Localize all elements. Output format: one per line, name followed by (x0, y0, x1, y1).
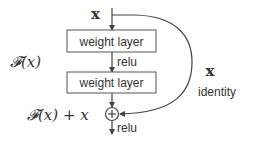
sum-label: 𝓕(x) + x (27, 106, 89, 124)
weight-layer-1: weight layer (67, 30, 156, 52)
relu-label-middle: relu (117, 55, 137, 69)
svg-text:weight layer: weight layer (78, 76, 143, 90)
input-x-label: x (91, 5, 101, 23)
residual-function-label: 𝓕(x) (10, 53, 41, 71)
weight-layer-2: weight layer (67, 72, 156, 93)
shortcut-x-label: x (206, 62, 216, 80)
relu-label-output: relu (117, 121, 137, 135)
svg-text:weight layer: weight layer (78, 35, 143, 49)
sum-node (106, 108, 119, 121)
residual-block-diagram: x weight layer weight layer relu relu 𝓕(… (0, 0, 253, 144)
identity-label: identity (198, 85, 236, 99)
